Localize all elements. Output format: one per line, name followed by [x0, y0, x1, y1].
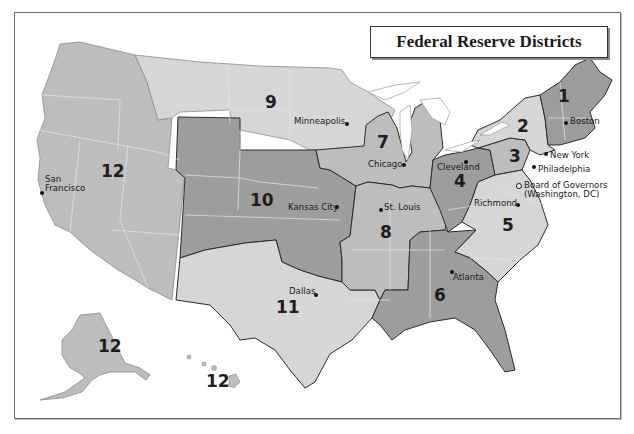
chicago-marker: [402, 163, 406, 167]
map-title-box: Federal Reserve Districts: [370, 26, 608, 58]
us-map: [0, 0, 634, 434]
new-york-marker: [544, 152, 548, 156]
st-louis-marker: [379, 208, 383, 212]
district-1-region: [540, 58, 612, 145]
cleveland-label: Cleveland: [437, 163, 480, 172]
district-8-label: 8: [380, 224, 392, 241]
new-york-label: New York: [550, 151, 589, 160]
map-title: Federal Reserve Districts: [396, 32, 582, 52]
board-of-governors-marker: [516, 183, 522, 189]
st-louis-label: St. Louis: [384, 203, 421, 212]
district-12-label-mainland: 12: [101, 163, 125, 180]
district-5-label: 5: [502, 217, 514, 234]
district-3-label: 3: [509, 148, 521, 165]
san-francisco-label: San Francisco: [45, 175, 85, 193]
board-of-governors-label: Board of Governors (Washington, DC): [524, 181, 607, 199]
boston-label: Boston: [570, 117, 600, 126]
san-francisco-marker: [40, 191, 44, 195]
district-1-label: 1: [558, 88, 570, 105]
district-11-label: 11: [276, 299, 300, 316]
district-9-label: 9: [265, 94, 277, 111]
alaska-region: [40, 313, 150, 400]
district-12-label-hawaii: 12: [206, 373, 230, 390]
dallas-label: Dallas: [289, 287, 315, 296]
kansas-city-label: Kansas City: [288, 203, 338, 212]
district-4-label: 4: [454, 173, 466, 190]
atlanta-label: Atlanta: [453, 273, 484, 282]
san-francisco-line2: Francisco: [45, 184, 85, 193]
district-6-label: 6: [434, 287, 446, 304]
district-10-label: 10: [250, 192, 274, 209]
minneapolis-label: Minneapolis: [294, 117, 345, 126]
district-2-label: 2: [517, 118, 529, 135]
board-of-governors-line2: (Washington, DC): [524, 190, 607, 199]
district-12-label-alaska: 12: [98, 338, 122, 355]
philadelphia-marker: [532, 165, 536, 169]
boston-marker: [564, 121, 568, 125]
chicago-label: Chicago: [368, 160, 403, 169]
richmond-label: Richmond: [474, 199, 517, 208]
district-7-label: 7: [377, 134, 389, 151]
minneapolis-marker: [345, 122, 349, 126]
philadelphia-label: Philadelphia: [538, 165, 590, 174]
